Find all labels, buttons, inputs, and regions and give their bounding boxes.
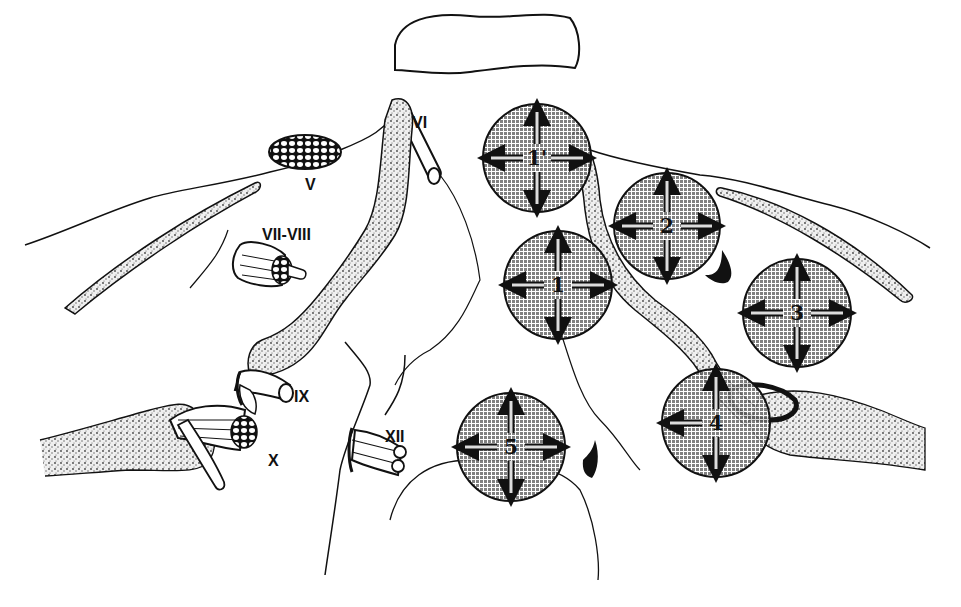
zone-label: 2 <box>660 214 674 238</box>
midline-contour <box>560 330 640 470</box>
label-nerve-xii: XII <box>385 428 405 445</box>
label-nerve-vi: VI <box>412 114 427 131</box>
zone-circle-zone-1-prime: 1' <box>483 104 591 212</box>
zone-circle-zone-5: 5 <box>457 393 565 501</box>
skull-base-outline-left <box>25 100 402 245</box>
nerve-ix <box>235 370 293 414</box>
zone-circle-zone-3: 3 <box>743 259 851 367</box>
dural-hook-mid <box>583 440 598 478</box>
petrous-ridge-left <box>65 182 260 314</box>
zone-label: 4 <box>709 411 723 435</box>
zone-circle-zone-2: 2 <box>614 173 720 279</box>
label-nerve-ix: IX <box>294 388 309 405</box>
jugular-vessel-right <box>750 391 925 470</box>
cerebellar-contour-left <box>190 230 228 288</box>
nerve-v-ganglion <box>269 135 341 169</box>
label-nerve-vii-viii: VII-VIII <box>262 226 311 243</box>
zone-label: 1' <box>527 146 547 170</box>
label-nerve-x: X <box>268 452 279 469</box>
zone-label: 3 <box>790 301 804 325</box>
clivus-contour <box>395 175 480 385</box>
zone-label: 1 <box>551 273 565 297</box>
label-nerve-v: V <box>305 176 316 193</box>
zone-label: 5 <box>504 435 518 459</box>
tentorium-outline <box>395 15 579 74</box>
zone-circle-zone-4: 4 <box>662 369 770 477</box>
anatomical-diagram: 1'12345 VI V VII-VIII IX X XII <box>0 0 961 607</box>
nerve-vi-end <box>428 168 440 184</box>
nerve-vii-viii <box>233 242 306 286</box>
zone-circle-zone-1: 1 <box>504 231 612 339</box>
